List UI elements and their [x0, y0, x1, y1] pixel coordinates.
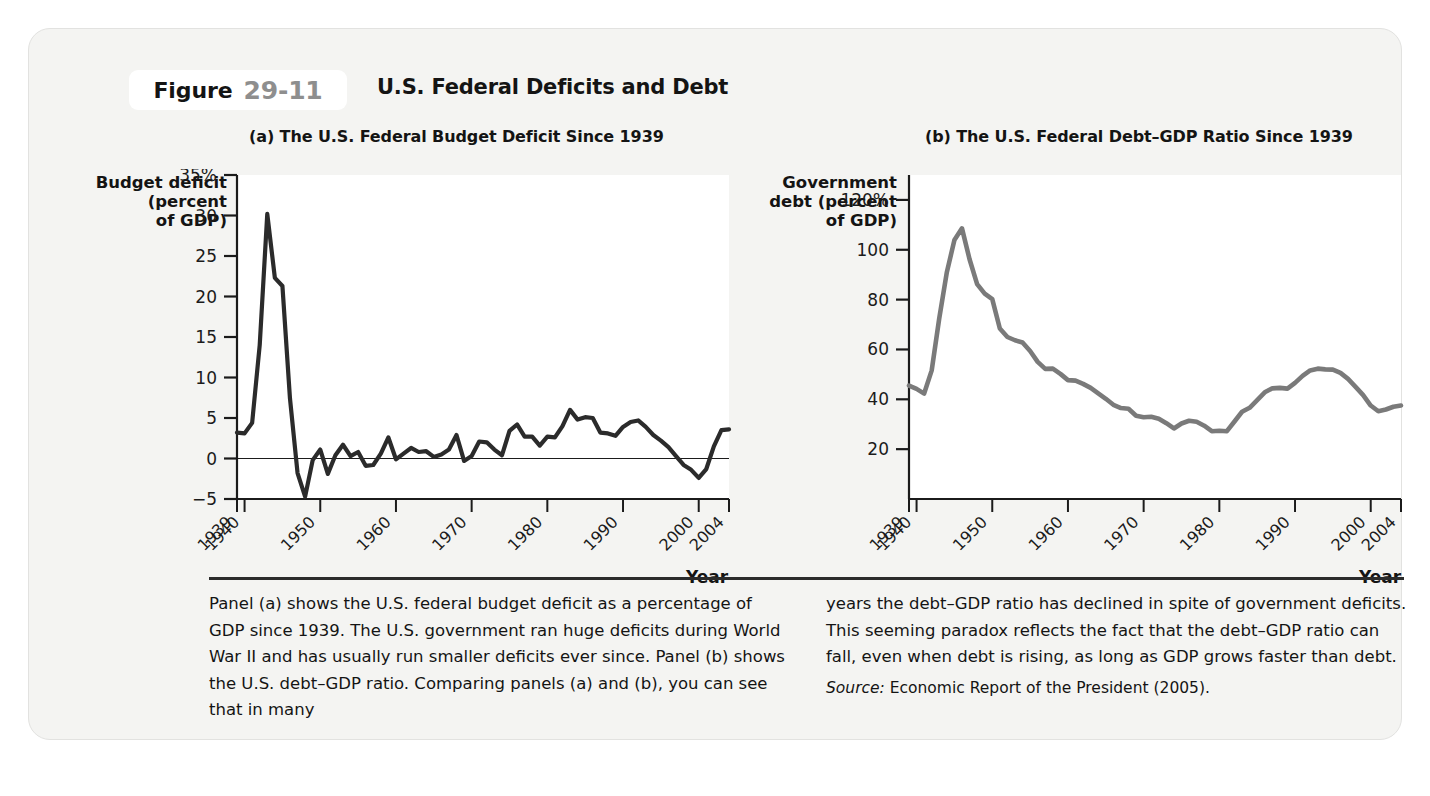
panel-b-title: (b) The U.S. Federal Debt–GDP Ratio Sinc… — [925, 127, 1353, 146]
x-tick-label: 1980 — [1176, 512, 1218, 554]
y-tick-label: 20 — [867, 439, 889, 459]
figure-card: Figure 29-11 U.S. Federal Deficits and D… — [28, 28, 1402, 740]
y-tick-label: 35% — [179, 169, 217, 185]
panel-a-title: (a) The U.S. Federal Budget Deficit Sinc… — [249, 127, 664, 146]
y-tick-label: 120% — [840, 190, 889, 210]
x-tick-label: 1950 — [949, 512, 991, 554]
x-tick-label: 2000 — [1327, 512, 1369, 554]
y-tick-label: 80 — [867, 290, 889, 310]
caption-divider — [209, 577, 1404, 580]
x-tick-label: 2004 — [686, 512, 728, 554]
x-tick-label: 1960 — [353, 512, 395, 554]
y-tick-label: 30 — [195, 206, 217, 226]
y-tick-label: −5 — [192, 489, 217, 509]
y-tick-label: 40 — [867, 389, 889, 409]
caption-right-text: years the debt–GDP ratio has declined in… — [826, 594, 1406, 666]
figure-page: Figure 29-11 U.S. Federal Deficits and D… — [0, 0, 1430, 796]
plot-background — [909, 175, 1401, 499]
x-tick-label: 2000 — [655, 512, 697, 554]
y-tick-label: 25 — [195, 246, 217, 266]
x-tick-label: 1970 — [428, 512, 470, 554]
source-label: Source: — [826, 679, 885, 697]
plot-background — [237, 175, 729, 499]
x-tick-label: 1950 — [277, 512, 319, 554]
caption-column-left: Panel (a) shows the U.S. federal budget … — [209, 591, 792, 724]
x-tick-label: 1940 — [873, 512, 915, 554]
y-tick-label: 100 — [857, 240, 889, 260]
panel-b-chart: 20406080100120%1939194019501960197019801… — [741, 169, 1411, 569]
caption-column-right: years the debt–GDP ratio has declined in… — [826, 591, 1409, 724]
y-tick-label: 20 — [195, 287, 217, 307]
y-tick-label: 60 — [867, 339, 889, 359]
figure-title: U.S. Federal Deficits and Debt — [377, 75, 728, 99]
x-tick-label: 1990 — [580, 512, 622, 554]
x-tick-label: 1990 — [1252, 512, 1294, 554]
figure-label-content: Figure 29-11 — [129, 70, 347, 110]
caption-block: Panel (a) shows the U.S. federal budget … — [209, 591, 1409, 724]
x-tick-label: 1940 — [201, 512, 243, 554]
source-line: Source: Economic Report of the President… — [826, 675, 1409, 702]
figure-label-pill: Figure 29-11 — [129, 70, 347, 110]
y-tick-label: 0 — [206, 449, 217, 469]
x-tick-label: 2004 — [1358, 512, 1400, 554]
y-tick-label: 5 — [206, 408, 217, 428]
x-tick-label: 1960 — [1025, 512, 1067, 554]
figure-label-word: Figure — [153, 78, 232, 103]
y-tick-label: 10 — [195, 368, 217, 388]
figure-number: 29-11 — [244, 76, 323, 105]
panel-a-chart: −505101520253035%19391940195019601970198… — [69, 169, 739, 569]
x-tick-label: 1980 — [504, 512, 546, 554]
source-text: Economic Report of the President (2005). — [890, 679, 1210, 697]
x-tick-label: 1970 — [1100, 512, 1142, 554]
y-tick-label: 15 — [195, 327, 217, 347]
